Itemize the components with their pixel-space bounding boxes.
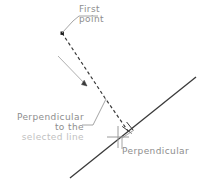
selected-line bbox=[70, 77, 196, 178]
leader-first-point bbox=[62, 16, 98, 33]
direction-arrow bbox=[58, 56, 87, 86]
geometry-svg bbox=[0, 0, 201, 182]
leader-perpendicular bbox=[122, 130, 134, 149]
diagram-canvas: First point Perpendicular to the selecte… bbox=[0, 0, 201, 182]
leader-perpendicular-selected bbox=[82, 99, 106, 125]
dashed-construction-line bbox=[62, 33, 128, 131]
